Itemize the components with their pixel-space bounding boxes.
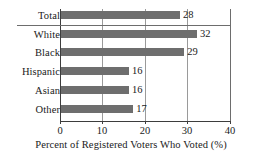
bar-value-total: 28	[183, 10, 194, 20]
bar-value-hispanic: 16	[132, 66, 143, 76]
bar-black	[61, 48, 184, 56]
category-label-asian: Asian	[0, 86, 60, 96]
tick-mark-0	[60, 121, 61, 124]
total-separator-rule	[17, 25, 231, 26]
tick-label-40: 40	[215, 125, 245, 136]
tick-mark-10	[102, 121, 103, 124]
bar-asian	[61, 86, 129, 94]
tick-label-30: 30	[172, 125, 202, 136]
tick-mark-40	[230, 121, 231, 124]
tick-label-20: 20	[130, 125, 160, 136]
bar-white	[61, 30, 197, 38]
bar-hispanic	[61, 67, 129, 75]
bar-value-asian: 16	[132, 85, 143, 95]
category-label-hispanic: Hispanic	[0, 67, 60, 77]
tick-mark-30	[187, 121, 188, 124]
bar-total	[61, 11, 180, 19]
bar-value-black: 29	[187, 47, 198, 57]
x-axis-title: Percent of Registered Voters Who Voted (…	[0, 139, 262, 151]
bar-value-other: 17	[136, 104, 147, 114]
category-label-other: Other	[0, 105, 60, 115]
category-label-black: Black	[0, 48, 60, 58]
tick-label-0: 0	[45, 125, 75, 136]
bar-chart: Total White Black Hispanic Asian Other 2…	[0, 0, 262, 158]
category-label-white: White	[0, 30, 60, 40]
tick-label-10: 10	[87, 125, 117, 136]
category-label-total: Total	[0, 11, 60, 21]
tick-mark-20	[145, 121, 146, 124]
bar-value-white: 32	[200, 29, 211, 39]
bar-other	[61, 105, 133, 113]
